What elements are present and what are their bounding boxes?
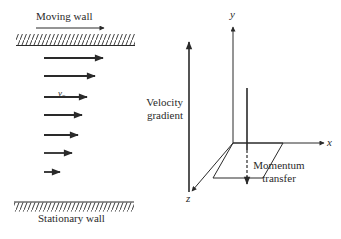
moving-wall <box>16 34 135 46</box>
stationary-wall <box>14 202 134 212</box>
y-axis-label: y <box>230 8 235 20</box>
momentum-transfer-label: Momentum transfer <box>251 159 307 185</box>
velocity-gradient-line2: gradient <box>140 109 183 122</box>
velocity-profile-arrows <box>44 58 103 172</box>
momentum-transfer-line2: transfer <box>251 172 307 185</box>
velocity-gradient-line1: Velocity <box>140 96 183 109</box>
momentum-transfer-line1: Momentum <box>251 159 307 172</box>
stationary-wall-label: Stationary wall <box>38 212 105 224</box>
velocity-label: vx <box>58 82 65 100</box>
velocity-subscript: x <box>62 92 65 100</box>
moving-wall-label: Moving wall <box>36 10 93 22</box>
x-axis-label: x <box>327 136 332 148</box>
z-axis <box>192 143 233 191</box>
z-axis-label: z <box>186 192 190 204</box>
velocity-gradient-label: Velocity gradient <box>140 96 183 122</box>
